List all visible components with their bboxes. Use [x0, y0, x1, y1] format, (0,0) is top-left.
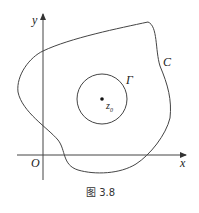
point-z0 [100, 97, 104, 101]
z0-label: z0 [106, 100, 113, 116]
y-axis-label: y [32, 14, 37, 26]
diagram-canvas [0, 0, 199, 213]
curve-c-label: C [163, 56, 171, 68]
origin-label: O [31, 157, 40, 169]
figure-caption: 图 3.8 [86, 188, 115, 198]
curve-c [18, 22, 171, 173]
gamma-label: Γ [126, 74, 133, 86]
z-subscript: 0 [110, 107, 113, 113]
x-axis-label: x [180, 157, 185, 169]
figure: y C Γ z0 O x 图 3.8 [0, 0, 199, 213]
